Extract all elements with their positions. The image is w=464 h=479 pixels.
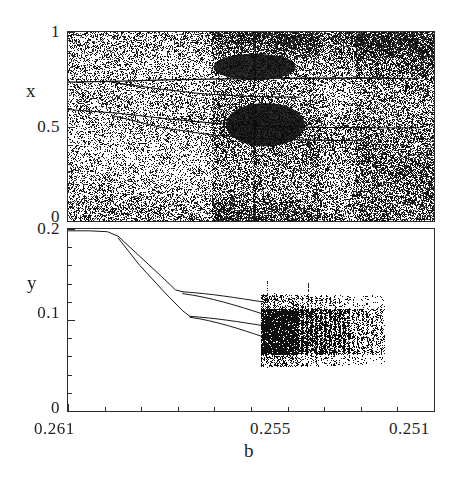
xaxis-tick (361, 407, 362, 411)
lower-ytick-label-0: 0 (22, 398, 60, 418)
xaxis-tick (251, 407, 252, 411)
yaxis-tick-upper (68, 221, 75, 222)
yaxis-tick-upper (68, 183, 72, 184)
upper-ytick-label-1: 1 (22, 22, 60, 42)
yaxis-tick-upper (68, 108, 72, 109)
xtick-label-mid: 0.255 (250, 419, 291, 439)
yaxis-tick-lower (68, 411, 75, 412)
xtick-label-left: 0.261 (34, 419, 75, 439)
bifurcation-figure: 1 0.5 0 x 0.2 0.1 0 y 0.261 0.255 0.251 … (0, 0, 464, 479)
lower-ytick-label-02: 0.2 (6, 219, 60, 239)
xaxis-tick (105, 407, 106, 411)
yaxis-tick-lower (68, 302, 72, 303)
xaxis-variable-b: b (244, 440, 254, 462)
upper-axis-variable-x: x (26, 80, 36, 102)
lower-ytick-label-01: 0.1 (6, 303, 60, 323)
yaxis-tick-upper (68, 164, 72, 165)
yaxis-tick-upper (68, 89, 72, 90)
yaxis-tick-lower (68, 247, 72, 248)
upper-ytick-label-05: 0.5 (6, 117, 60, 137)
yaxis-tick-lower (68, 320, 75, 321)
yaxis-tick-upper (68, 32, 75, 33)
yaxis-tick-lower (68, 356, 72, 357)
lower-axis-variable-y: y (27, 272, 37, 294)
xaxis-tick (214, 407, 215, 411)
lower-panel-scatter (68, 229, 434, 411)
yaxis-tick-lower (68, 265, 72, 266)
yaxis-tick-upper (68, 51, 72, 52)
yaxis-tick-upper (68, 145, 72, 146)
yaxis-tick-lower (68, 375, 72, 376)
xaxis-tick (141, 407, 142, 411)
yaxis-tick-lower (68, 393, 72, 394)
yaxis-tick-lower (68, 229, 75, 230)
xaxis-tick (324, 407, 325, 411)
yaxis-tick-lower (68, 338, 72, 339)
xtick-label-right: 0.251 (389, 419, 430, 439)
lower-plot-panel (67, 228, 435, 412)
upper-plot-panel (67, 31, 435, 222)
upper-panel-scatter (68, 32, 434, 221)
xaxis-tick (434, 404, 435, 411)
yaxis-tick-upper (68, 70, 72, 71)
xaxis-tick (288, 407, 289, 411)
yaxis-tick-lower (68, 284, 72, 285)
xaxis-tick (178, 407, 179, 411)
xaxis-tick (397, 407, 398, 411)
yaxis-tick-upper (68, 202, 72, 203)
yaxis-tick-upper (68, 127, 75, 128)
xaxis-tick (68, 404, 69, 411)
